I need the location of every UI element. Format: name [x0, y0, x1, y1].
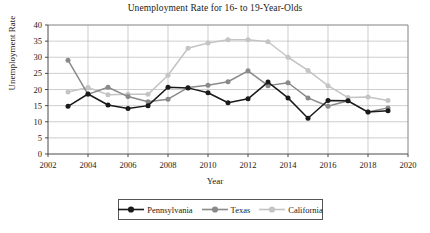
data-point-california [166, 73, 171, 78]
unemployment-rate-line-chart: Unemployment Rate for 16- to 19-Year-Old… [0, 0, 430, 233]
data-point-california [326, 83, 331, 88]
data-point-texas [166, 97, 171, 102]
data-point-pennsylvania [266, 80, 271, 85]
data-point-pennsylvania [346, 98, 351, 103]
data-point-texas [126, 94, 131, 99]
legend-marker-pennsylvania [118, 204, 144, 215]
legend-item-texas: Texas [202, 204, 251, 215]
legend-item-california: California [259, 204, 322, 215]
y-tick-label: 5 [38, 133, 42, 143]
data-point-pennsylvania [126, 106, 131, 111]
data-point-pennsylvania [86, 92, 91, 97]
data-point-pennsylvania [286, 95, 291, 100]
x-tick-label: 2014 [280, 160, 298, 170]
data-point-pennsylvania [206, 90, 211, 95]
x-tick-label: 2012 [240, 160, 257, 170]
data-point-california [306, 68, 311, 73]
data-point-california [146, 92, 151, 97]
data-point-texas [106, 85, 111, 90]
x-tick-label: 2004 [80, 160, 98, 170]
y-tick-label: 20 [34, 85, 43, 95]
chart-legend: Pennsylvania Texas California [118, 199, 323, 220]
data-point-pennsylvania [366, 110, 371, 115]
legend-label-texas: Texas [231, 205, 251, 215]
legend-item-pennsylvania: Pennsylvania [118, 204, 192, 215]
legend-label-california: California [288, 205, 322, 215]
data-point-texas [306, 95, 311, 100]
data-point-pennsylvania [306, 116, 311, 121]
legend-marker-texas [202, 204, 228, 215]
data-point-texas [246, 68, 251, 73]
x-axis-title: Year [0, 176, 430, 186]
x-tick-label: 2008 [160, 160, 177, 170]
legend-label-pennsylvania: Pennsylvania [147, 205, 192, 215]
y-tick-label: 40 [34, 20, 43, 30]
y-tick-label: 0 [38, 149, 42, 159]
data-point-california [106, 92, 111, 97]
x-tick-label: 2016 [320, 160, 337, 170]
data-point-pennsylvania [166, 85, 171, 90]
x-tick-label: 2002 [40, 160, 57, 170]
data-point-california [286, 55, 291, 60]
data-point-california [66, 90, 71, 95]
x-tick-label: 2006 [120, 160, 137, 170]
series-line-pennsylvania [68, 82, 388, 118]
data-point-pennsylvania [106, 102, 111, 107]
x-tick-label: 2020 [400, 160, 417, 170]
data-point-pennsylvania [326, 98, 331, 103]
x-tick-label: 2010 [200, 160, 217, 170]
x-tick-label: 2018 [360, 160, 377, 170]
y-tick-label: 35 [34, 36, 43, 46]
legend-marker-california [259, 204, 285, 215]
data-point-pennsylvania [66, 104, 71, 109]
y-tick-label: 30 [34, 52, 43, 62]
data-point-california [266, 39, 271, 44]
data-point-texas [226, 79, 231, 84]
data-point-california [386, 98, 391, 103]
data-point-california [246, 37, 251, 42]
y-tick-label: 10 [34, 117, 43, 127]
data-point-california [186, 46, 191, 51]
data-point-california [226, 37, 231, 42]
data-point-california [366, 94, 371, 99]
data-point-pennsylvania [386, 108, 391, 113]
data-point-california [86, 85, 91, 90]
data-point-pennsylvania [186, 85, 191, 90]
data-point-texas [326, 104, 331, 109]
data-point-california [206, 41, 211, 46]
data-point-texas [66, 58, 71, 63]
y-tick-label: 25 [34, 68, 43, 78]
data-point-texas [286, 80, 291, 85]
data-point-pennsylvania [246, 96, 251, 101]
data-point-texas [206, 83, 211, 88]
data-point-pennsylvania [146, 103, 151, 108]
y-tick-label: 15 [34, 101, 43, 111]
data-point-pennsylvania [226, 100, 231, 105]
